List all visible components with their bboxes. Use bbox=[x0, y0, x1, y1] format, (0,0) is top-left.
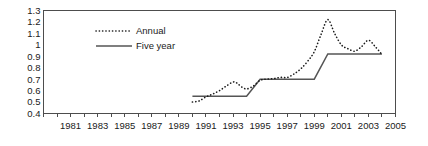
legend-label-five-year: Five year bbox=[136, 40, 175, 51]
x-tick-label: 1995 bbox=[250, 120, 271, 131]
x-tick-label: 2003 bbox=[358, 120, 379, 131]
x-tick-label: 1993 bbox=[222, 120, 243, 131]
y-tick-label: 1.1 bbox=[27, 28, 40, 39]
x-tick-label: 1997 bbox=[277, 120, 298, 131]
y-tick-label: 0.4 bbox=[27, 108, 40, 119]
x-tick-label: 1983 bbox=[87, 120, 108, 131]
x-tick-label: 2001 bbox=[331, 120, 352, 131]
x-tick-label: 1985 bbox=[114, 120, 135, 131]
y-tick-label: 0.8 bbox=[27, 62, 40, 73]
x-tick-label: 1999 bbox=[304, 120, 325, 131]
x-tick-label: 1987 bbox=[141, 120, 162, 131]
x-tick-label: 1989 bbox=[168, 120, 189, 131]
y-tick-label: 0.7 bbox=[27, 74, 40, 85]
y-tick-label: 1.2 bbox=[27, 16, 40, 27]
x-tick-label: 1991 bbox=[195, 120, 216, 131]
y-tick-label: 0.6 bbox=[27, 85, 40, 96]
y-tick-label: 0.9 bbox=[27, 51, 40, 62]
x-tick-label: 2005 bbox=[385, 120, 406, 131]
y-tick-label: 0.5 bbox=[27, 96, 40, 107]
line-chart: 1.31.21.110.90.80.70.60.50.4 19811983198… bbox=[0, 0, 428, 146]
legend-label-annual: Annual bbox=[136, 25, 166, 36]
y-tick-label: 1 bbox=[35, 39, 40, 50]
x-tick-label: 1981 bbox=[60, 120, 81, 131]
chart-container: 1.31.21.110.90.80.70.60.50.4 19811983198… bbox=[0, 0, 428, 146]
y-axis-tick-labels: 1.31.21.110.90.80.70.60.50.4 bbox=[27, 5, 40, 119]
y-tick-label: 1.3 bbox=[27, 5, 40, 16]
